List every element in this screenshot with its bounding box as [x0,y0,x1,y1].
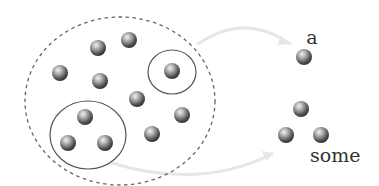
ball-icon [174,107,190,123]
ball-icon [278,127,294,143]
ball-icon [129,91,145,107]
ball-icon [296,49,312,65]
ball-icon [77,109,93,125]
arrow-to-a-head-icon [278,35,290,45]
output-label: a [306,26,317,48]
output-some: some [278,101,360,166]
ball-icon [121,32,137,48]
universe-boundary [25,17,215,185]
arrow-to-some-line [112,154,272,175]
ball-icon [92,73,108,89]
ball-icon [97,135,113,151]
output-label: some [310,144,360,166]
ball-icon [52,65,68,81]
ball-icon [90,40,106,56]
ball-icon [164,63,180,79]
ball-icon [144,126,160,142]
diagram-canvas: asome [0,0,379,186]
ball-icon [313,127,329,143]
universe-set [25,17,215,185]
output-a: a [296,26,318,65]
outputs-layer: asome [278,26,360,166]
ball-icon [60,135,76,151]
arrow-to-a-line [198,28,290,44]
ball-icon [293,101,309,117]
